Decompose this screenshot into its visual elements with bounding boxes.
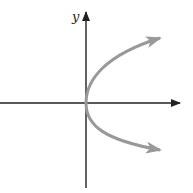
lower-branch: [86, 103, 160, 150]
y-axis-label: y: [71, 9, 80, 24]
coordinate-diagram: y: [0, 0, 193, 193]
upper-branch: [86, 38, 160, 103]
parabola-curve: [86, 38, 160, 150]
